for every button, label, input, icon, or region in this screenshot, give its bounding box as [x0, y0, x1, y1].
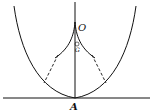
label-vertex: A [69, 101, 78, 111]
label-origin: O [78, 22, 86, 33]
diagram-canvas: O G A [0, 0, 157, 111]
label-center: G [75, 46, 80, 53]
normal-line-left [44, 55, 58, 83]
evolute-left-branch [55, 22, 75, 58]
normal-line-right [92, 55, 106, 83]
